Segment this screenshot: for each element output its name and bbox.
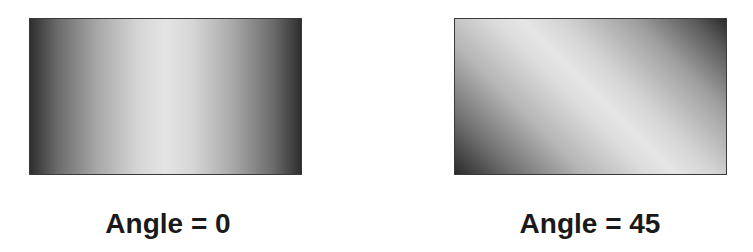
gradient-swatch-angle-45	[454, 18, 727, 175]
caption-angle-45: Angle = 45	[460, 208, 720, 240]
gradient-panel-angle-45: Angle = 45	[376, 0, 752, 252]
gradient-swatch-angle-0	[29, 18, 302, 175]
gradient-panel-angle-0: Angle = 0	[0, 0, 376, 252]
caption-angle-0: Angle = 0	[38, 208, 298, 240]
